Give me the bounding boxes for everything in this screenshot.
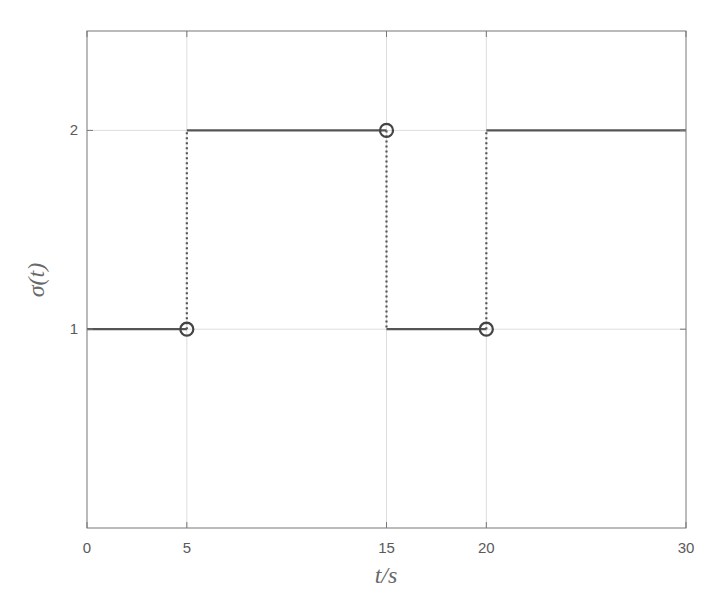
x-tick-label: 15 <box>378 539 395 556</box>
tick-labels: 0515203012 <box>70 121 695 556</box>
y-tick-label: 1 <box>70 320 78 337</box>
x-tick-label: 30 <box>678 539 695 556</box>
step-chart: 0515203012 t/s σ(t) <box>0 0 728 613</box>
x-tick-label: 20 <box>478 539 495 556</box>
grid-lines <box>87 31 686 528</box>
x-tick-label: 5 <box>183 539 191 556</box>
y-tick-label: 2 <box>70 121 78 138</box>
y-axis-label: σ(t) <box>23 263 49 298</box>
x-tick-label: 0 <box>83 539 91 556</box>
x-axis-label: t/s <box>375 562 398 588</box>
